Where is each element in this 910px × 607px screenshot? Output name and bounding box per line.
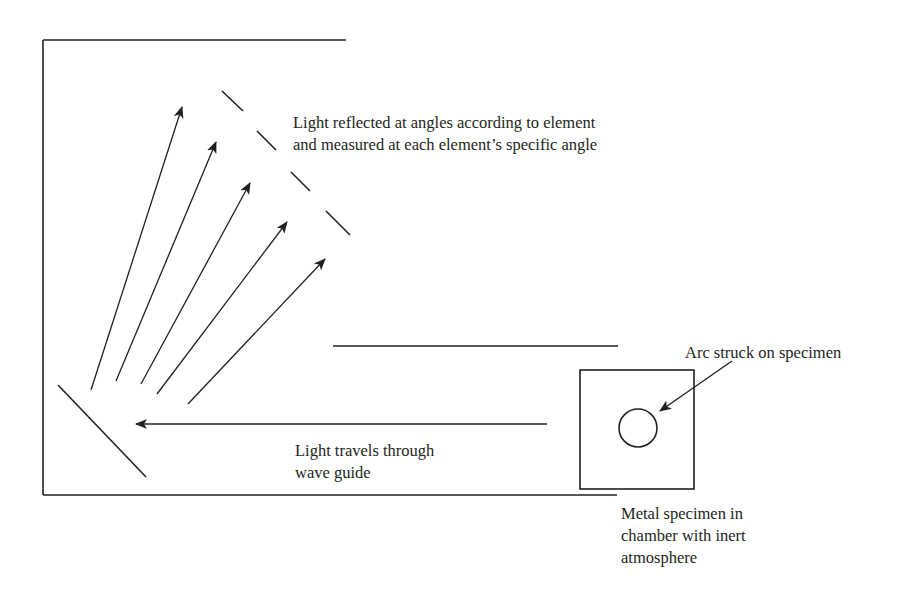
reflected-ray-2-arrow-icon <box>116 142 216 381</box>
arc-pointer-arrow-icon <box>660 361 732 411</box>
specimen-chamber-box <box>580 370 694 489</box>
reflected-ray-5-arrow-icon <box>188 259 325 404</box>
specimen-label: Metal specimen in chamber with inert atm… <box>621 503 746 569</box>
reflected-light-label-line-2: and measured at each element’s specific … <box>293 134 597 156</box>
wave-guide-label-line-2: wave guide <box>295 462 434 484</box>
detector-slit-2 <box>257 131 276 150</box>
detector-slit-4 <box>326 211 350 235</box>
specimen-label-line-1: Metal specimen in <box>621 503 746 525</box>
reflected-light-rays <box>91 107 325 404</box>
specimen-chamber <box>580 370 694 489</box>
spectrometer-diagram <box>0 0 910 607</box>
arc-pointer-arrow <box>660 361 732 411</box>
detector-slit-1 <box>222 91 243 111</box>
grating-line <box>58 385 146 477</box>
instrument-housing <box>43 40 617 495</box>
specimen-label-line-3: atmosphere <box>621 547 746 569</box>
arc-label: Arc struck on specimen <box>685 342 841 364</box>
wave-guide-label: Light travels through wave guide <box>295 440 434 484</box>
reflected-light-label-line-1: Light reflected at angles according to e… <box>293 112 597 134</box>
specimen-label-line-2: chamber with inert <box>621 525 746 547</box>
reflected-light-label: Light reflected at angles according to e… <box>293 112 597 156</box>
arc-label-line-1: Arc struck on specimen <box>685 342 841 364</box>
wave-guide-label-line-1: Light travels through <box>295 440 434 462</box>
detector-slit-3 <box>291 172 310 191</box>
diffraction-grating <box>58 385 146 477</box>
reflected-ray-1-arrow-icon <box>91 107 182 390</box>
arc-spot-icon <box>619 409 657 447</box>
